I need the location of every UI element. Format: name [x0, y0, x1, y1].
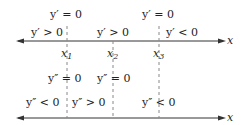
top-interval-label-2: y′ > 0	[97, 27, 129, 38]
bottom-axis-left-arrow-icon	[16, 116, 24, 121]
top-axis-left-arrow-icon	[16, 39, 24, 44]
top-interval-label-3: y′ < 0	[166, 27, 198, 38]
point-x2-label: x2	[107, 48, 118, 61]
point-x3-label: x3	[153, 48, 164, 61]
top-critical-label-2: y′ = 0	[142, 9, 174, 20]
bottom-axis-label: x	[227, 112, 233, 123]
bottom-interval-label-3: y″ < 0	[142, 97, 176, 108]
bottom-axis-right-arrow-icon	[218, 116, 226, 121]
bottom-critical-label-2: y″ = 0	[97, 73, 131, 84]
bottom-critical-label-1: y″ = 0	[48, 73, 82, 84]
top-critical-label-1: y′ = 0	[50, 9, 82, 20]
point-x1-label: x1	[61, 48, 72, 61]
top-axis-label: x	[227, 35, 233, 46]
bottom-interval-label-1: y″ < 0	[26, 97, 60, 108]
bottom-interval-label-2: y″ > 0	[72, 97, 106, 108]
top-interval-label-1: y′ > 0	[31, 27, 63, 38]
top-axis-right-arrow-icon	[218, 39, 226, 44]
